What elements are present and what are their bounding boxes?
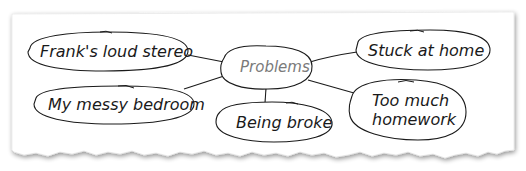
node-label: My messy bedroom [48,95,205,114]
node-stuck-at-home: Stuck at home [356,30,490,70]
node-label: Being broke [236,113,332,132]
center-node-problems: Problems [221,46,312,89]
node-label: Stuck at home [368,41,484,60]
node-label-line2: homework [372,110,457,129]
node-being-broke: Being broke [216,102,332,142]
node-too-much-homework: Too much homework [349,80,466,140]
node-franks-loud-stereo: Frank's loud stereo [28,31,193,71]
node-label-line1: Too much [372,91,449,110]
mind-map-diagram: Problems Frank's loud stereo My messy be… [0,0,526,171]
center-label: Problems [240,58,310,76]
node-label: Frank's loud stereo [40,42,193,61]
